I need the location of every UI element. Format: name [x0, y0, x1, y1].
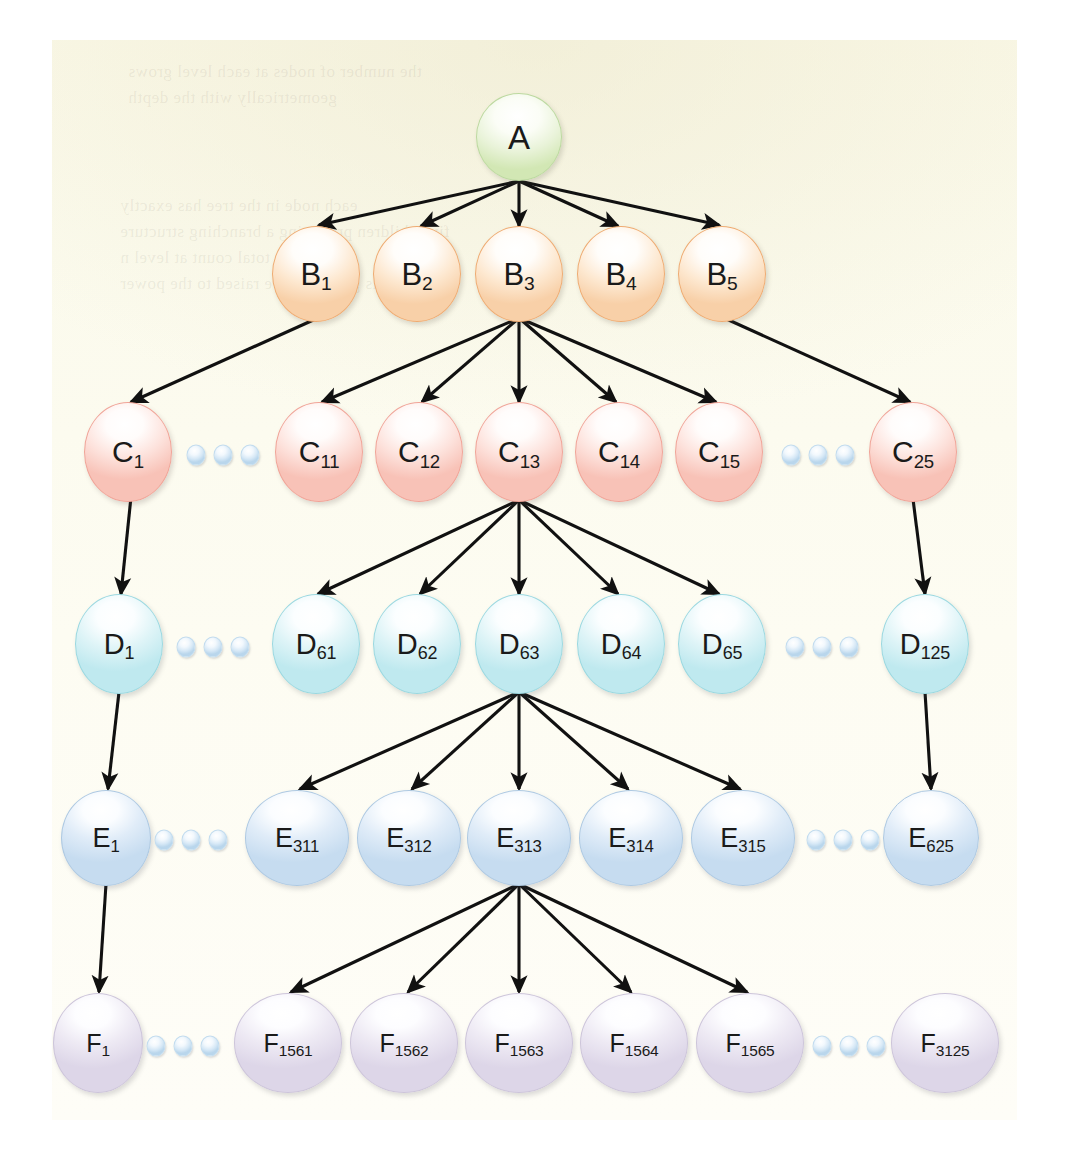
tree-node-e315[interactable]: E315 [691, 790, 795, 886]
tree-node-c12[interactable]: C12 [375, 402, 463, 502]
node-label: F1 [86, 1031, 110, 1056]
tree-node-d61[interactable]: D61 [272, 594, 360, 694]
ellipsis-dot [809, 445, 828, 466]
ellipsis-dot [241, 445, 260, 466]
ellipsis-dot [155, 830, 174, 851]
tree-node-a[interactable]: A [476, 93, 562, 181]
tree-node-d125[interactable]: D125 [881, 594, 969, 694]
ghost-text-line: each node in the tree has exactly [120, 196, 357, 216]
ellipsis-dot [182, 830, 201, 851]
node-label: E311 [275, 825, 319, 852]
tree-node-e312[interactable]: E312 [357, 790, 461, 886]
ellipsis-dot [174, 1036, 193, 1057]
ellipsis-dot [836, 445, 855, 466]
ellipsis-dot [861, 830, 880, 851]
ellipsis-dot [786, 637, 805, 658]
tree-node-b3[interactable]: B3 [475, 226, 563, 322]
node-label: F1562 [380, 1031, 429, 1056]
ellipsis-dot [867, 1036, 886, 1057]
node-label: E625 [908, 825, 953, 852]
ellipsis-dot [782, 445, 801, 466]
ellipsis-dots-d-2 [782, 637, 863, 658]
ellipsis-dot [187, 445, 206, 466]
ellipsis-dots-e-1 [151, 830, 232, 851]
ellipsis-dot [214, 445, 233, 466]
tree-node-d63[interactable]: D63 [475, 594, 563, 694]
node-label: B4 [605, 259, 636, 290]
tree-node-b5[interactable]: B5 [678, 226, 766, 322]
node-label: F1565 [726, 1031, 775, 1056]
tree-node-e314[interactable]: E314 [579, 790, 683, 886]
node-label: E1 [92, 825, 119, 852]
tree-node-b4[interactable]: B4 [577, 226, 665, 322]
tree-node-e1[interactable]: E1 [61, 790, 151, 886]
node-label: D1 [104, 630, 135, 659]
node-label: C15 [698, 437, 740, 467]
tree-node-b2[interactable]: B2 [373, 226, 461, 322]
tree-node-f1565[interactable]: F1565 [696, 993, 804, 1093]
ellipsis-dot [834, 830, 853, 851]
ellipsis-dot [813, 637, 832, 658]
tree-node-d62[interactable]: D62 [373, 594, 461, 694]
ellipsis-dot [177, 637, 196, 658]
tree-node-e313[interactable]: E313 [467, 790, 571, 886]
tree-node-f1[interactable]: F1 [53, 993, 143, 1093]
node-label: D62 [397, 630, 438, 659]
ellipsis-dot [840, 1036, 859, 1057]
node-label: D61 [296, 630, 337, 659]
tree-node-f1562[interactable]: F1562 [350, 993, 458, 1093]
node-label: C14 [598, 437, 640, 467]
node-label: F1564 [610, 1031, 659, 1056]
node-label: D63 [499, 630, 540, 659]
node-label: D65 [702, 630, 743, 659]
tree-node-b1[interactable]: B1 [272, 226, 360, 322]
ellipsis-dot [807, 830, 826, 851]
node-label: B3 [503, 259, 534, 290]
ellipsis-dot [840, 637, 859, 658]
node-label: B1 [300, 259, 331, 290]
node-label: C12 [398, 437, 440, 467]
ellipsis-dots-c-2 [778, 445, 859, 466]
tree-node-c13[interactable]: C13 [475, 402, 563, 502]
tree-node-f3125[interactable]: F3125 [891, 993, 999, 1093]
ellipsis-dots-d-1 [173, 637, 254, 658]
ellipsis-dot [204, 637, 223, 658]
node-label: A [508, 121, 530, 154]
ellipsis-dot [813, 1036, 832, 1057]
node-label: C11 [299, 437, 340, 467]
ellipsis-dots-f-2 [809, 1036, 890, 1057]
node-label: E315 [720, 825, 765, 852]
tree-node-f1561[interactable]: F1561 [234, 993, 342, 1093]
tree-node-c11[interactable]: C11 [275, 402, 363, 502]
tree-node-e311[interactable]: E311 [245, 790, 349, 886]
node-label: B2 [401, 259, 432, 290]
diagram-canvas: the number of nodes at each level growsg… [0, 0, 1069, 1161]
node-label: F3125 [921, 1031, 970, 1056]
ghost-text-line: the number of nodes at each level grows [128, 62, 422, 82]
node-label: E313 [496, 825, 541, 852]
ellipsis-dots-c-1 [183, 445, 264, 466]
node-label: B5 [706, 259, 737, 290]
tree-node-d64[interactable]: D64 [577, 594, 665, 694]
node-label: D64 [601, 630, 642, 659]
ellipsis-dot [231, 637, 250, 658]
tree-node-f1564[interactable]: F1564 [580, 993, 688, 1093]
node-label: E312 [386, 825, 431, 852]
ellipsis-dots-f-1 [143, 1036, 224, 1057]
tree-node-e625[interactable]: E625 [883, 790, 979, 886]
tree-node-f1563[interactable]: F1563 [465, 993, 573, 1093]
tree-node-c15[interactable]: C15 [675, 402, 763, 502]
tree-node-d1[interactable]: D1 [75, 594, 163, 694]
node-label: F1563 [495, 1031, 544, 1056]
ghost-text-line: geometrically with the depth [128, 88, 337, 108]
tree-node-c14[interactable]: C14 [575, 402, 663, 502]
tree-node-c1[interactable]: C1 [84, 402, 172, 502]
ellipsis-dot [201, 1036, 220, 1057]
node-label: C25 [892, 437, 934, 467]
tree-node-c25[interactable]: C25 [869, 402, 957, 502]
ellipsis-dots-e-2 [803, 830, 884, 851]
tree-node-d65[interactable]: D65 [678, 594, 766, 694]
node-label: F1561 [264, 1031, 313, 1056]
node-label: D125 [900, 630, 950, 659]
ellipsis-dot [147, 1036, 166, 1057]
